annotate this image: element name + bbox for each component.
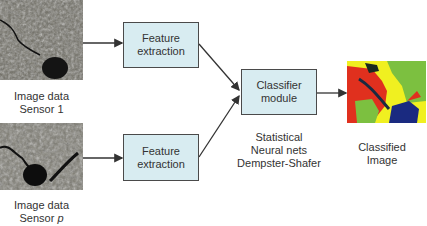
classifier-methods: Statistical Neural nets Dempster-Shafer <box>229 131 329 170</box>
classified-image <box>347 61 426 123</box>
classified-image-caption: Classified Image <box>342 141 422 167</box>
feature-extraction-box-1: Featureextraction <box>123 22 199 68</box>
classifier-module-box: Classifiermodule <box>241 69 317 115</box>
feature-extraction-box-2: Featureextraction <box>123 134 199 181</box>
